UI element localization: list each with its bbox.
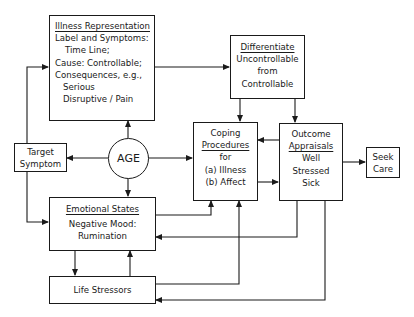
node-text: Symptom	[15, 158, 66, 170]
node-text: (a) Illness	[194, 164, 257, 176]
node-text: Label and Symptoms:	[55, 32, 149, 44]
node-text: Uncontrollable	[233, 53, 302, 65]
node-label: Life Stressors	[50, 284, 155, 296]
node-title: Coping	[194, 127, 257, 139]
node-text: Time Line;	[55, 44, 149, 56]
node-title: Outcome	[280, 128, 342, 140]
node-text: Target	[15, 146, 66, 158]
node-target-symptom: Target Symptom	[14, 143, 67, 172]
node-age: AGE	[108, 138, 149, 179]
node-title: Appraisals	[280, 140, 342, 152]
node-title: Illness Representation	[55, 20, 149, 32]
node-title: Procedures	[194, 139, 257, 151]
node-text: Care	[367, 163, 399, 175]
node-illness-representation: Illness Representation Label and Symptom…	[49, 15, 155, 121]
node-title: Differentiate	[233, 41, 302, 53]
node-life-stressors: Life Stressors	[49, 276, 156, 304]
node-seek-care: Seek Care	[366, 147, 400, 178]
node-differentiate: Differentiate Uncontrollable from Contro…	[230, 35, 305, 99]
node-text: Consequences, e.g.,	[55, 69, 149, 81]
node-text: Cause: Controllable;	[55, 57, 149, 69]
node-text: for	[194, 151, 257, 163]
node-text: Controllable	[233, 78, 302, 90]
node-coping-procedures: Coping Procedures for (a) Illness (b) Af…	[193, 122, 258, 201]
node-title: Emotional States	[50, 203, 155, 215]
node-label: AGE	[117, 152, 140, 165]
node-text: Rumination	[50, 230, 155, 242]
node-text: Stressed	[280, 165, 342, 177]
node-text: from	[233, 65, 302, 77]
node-text: Well	[280, 152, 342, 164]
node-emotional-states: Emotional States Negative Mood: Ruminati…	[49, 197, 156, 251]
node-text: Negative Mood:	[50, 218, 155, 230]
node-text: Serious	[55, 81, 149, 93]
node-text: Disruptive / Pain	[55, 93, 149, 105]
node-text: Sick	[280, 177, 342, 189]
node-text: Seek	[367, 151, 399, 163]
node-outcome-appraisals: Outcome Appraisals Well Stressed Sick	[279, 123, 343, 201]
node-text: (b) Affect	[194, 176, 257, 188]
